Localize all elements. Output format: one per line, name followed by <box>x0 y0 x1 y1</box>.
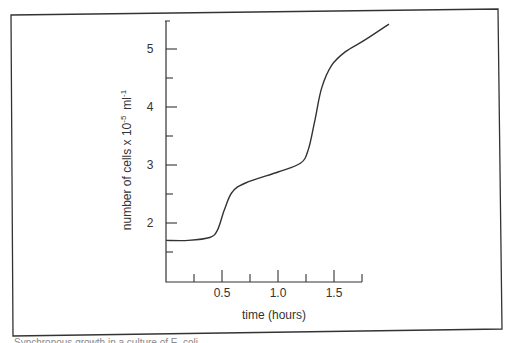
x-tick-label: 1.0 <box>270 286 287 300</box>
axes <box>165 21 362 282</box>
figure-frame <box>11 9 502 336</box>
svg-text:number of cells x 10-5ml-1: number of cells x 10-5ml-1 <box>119 89 134 230</box>
x-axis-label: time (hours) <box>242 308 306 322</box>
y-tick-label: 5 <box>147 42 154 56</box>
growth-curve <box>166 24 389 241</box>
tick-labels: 23450.51.01.5 <box>147 42 343 300</box>
x-tick-label: 0.5 <box>214 286 231 300</box>
y-label-main: number of cells x 10 <box>120 122 134 230</box>
chart-figure: 23450.51.01.5 time (hours) number of cel… <box>0 0 509 343</box>
y-label-exp1: -5 <box>119 115 128 123</box>
figure-caption: Synchronous growth in a culture of E. co… <box>14 337 198 343</box>
y-tick-label: 2 <box>147 216 154 230</box>
y-label-exp2: -1 <box>119 89 128 97</box>
y-label-unit: ml <box>120 97 134 110</box>
ticks <box>166 49 362 282</box>
axis-lines <box>165 21 362 282</box>
y-axis-label: number of cells x 10-5ml-1 <box>119 89 134 230</box>
y-tick-label: 4 <box>147 100 154 114</box>
y-tick-label: 3 <box>147 158 154 172</box>
x-tick-label: 1.5 <box>326 286 343 300</box>
